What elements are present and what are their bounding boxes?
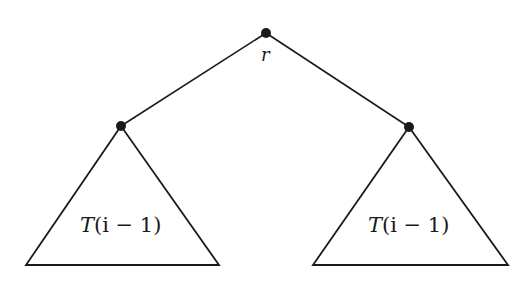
edge-root-left (121, 33, 266, 126)
right-subtree-label: T(i − 1) (368, 213, 449, 237)
right-child-node (404, 122, 414, 132)
edge-root-right (266, 33, 409, 127)
root-node (261, 28, 271, 38)
left-subtree-label: T(i − 1) (80, 213, 161, 237)
root-label: r (261, 44, 271, 65)
right-args: (i − 1) (382, 213, 449, 237)
right-subtree-triangle (313, 127, 508, 265)
left-subtree-triangle (26, 126, 219, 265)
left-args: (i − 1) (94, 213, 161, 237)
tree-diagram: r T(i − 1) T(i − 1) (0, 0, 531, 282)
left-child-node (116, 121, 126, 131)
